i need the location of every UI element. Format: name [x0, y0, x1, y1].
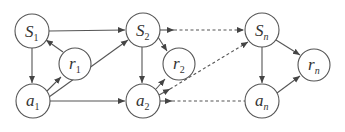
node-sn-sub: n	[264, 31, 269, 42]
node-a1: a1	[16, 84, 50, 118]
node-a2-base: a	[136, 91, 145, 110]
edge-an-rn	[277, 76, 300, 93]
node-a2-sub: 2	[145, 101, 150, 112]
node-r2-sub: 2	[180, 64, 185, 75]
edge-s2-r2	[158, 37, 167, 51]
node-s2: S2	[126, 13, 160, 47]
node-rn: rn	[298, 49, 330, 81]
edge-sn-rn	[276, 40, 300, 55]
edge-s1-s2	[49, 30, 125, 31]
node-r1: r1	[59, 48, 91, 80]
node-r1-sub: 1	[76, 64, 81, 75]
node-an-base: a	[255, 91, 264, 110]
node-a1-sub: 1	[35, 101, 40, 112]
node-s1: S1	[15, 14, 49, 48]
graphical-model-diagram: S1 r1 a1 S2 r2 a2 Sn rn an	[0, 0, 345, 132]
node-r2: r2	[163, 48, 195, 80]
edge-r1-s1	[46, 40, 63, 52]
node-an-sub: n	[264, 101, 269, 112]
node-s2-sub: 2	[145, 31, 150, 42]
node-an: an	[245, 84, 279, 118]
node-rn-sub: n	[315, 65, 320, 76]
node-s1-sub: 1	[34, 32, 39, 43]
node-sn: Sn	[245, 13, 279, 47]
edge-a2-sn-arrow-stub	[159, 89, 170, 95]
node-a1-base: a	[26, 91, 35, 110]
edge-a2-r2	[156, 79, 165, 89]
edge-a1-r1	[47, 77, 61, 91]
node-a2: a2	[126, 84, 160, 118]
